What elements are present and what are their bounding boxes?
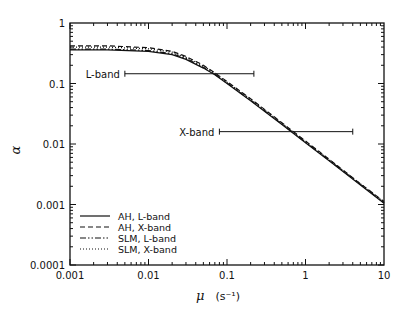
x-tick-label: 0.01 bbox=[137, 270, 159, 281]
legend-label: SLM, L-band bbox=[118, 233, 176, 244]
x-axis-unit: (s⁻¹) bbox=[216, 290, 241, 303]
x-tick-label: 0.001 bbox=[56, 270, 85, 281]
y-tick-label: 0.0001 bbox=[30, 260, 65, 271]
band-label: X-band bbox=[179, 127, 214, 138]
x-tick-label: 0.1 bbox=[219, 270, 235, 281]
legend-label: SLM, X-band bbox=[118, 244, 177, 255]
x-tick-label: 10 bbox=[378, 270, 391, 281]
y-tick-labels: 0.00010.0010.010.11 bbox=[30, 18, 65, 271]
band-range-bars: L-bandX-band bbox=[86, 69, 353, 138]
chart-figure: L-bandX-band 0.0010.010.1110 0.00010.001… bbox=[0, 0, 406, 312]
y-tick-label: 0.1 bbox=[49, 79, 65, 90]
x-tick-labels: 0.0010.010.1110 bbox=[56, 270, 391, 281]
x-tick-label: 1 bbox=[302, 270, 308, 281]
legend-label: AH, X-band bbox=[118, 222, 171, 233]
y-tick-label: 0.001 bbox=[36, 200, 65, 211]
legend-label: AH, L-band bbox=[118, 211, 170, 222]
y-tick-label: 1 bbox=[59, 18, 65, 29]
x-axis-symbol: μ bbox=[196, 288, 204, 303]
band-label: L-band bbox=[86, 69, 120, 80]
legend: AH, L-bandAH, X-bandSLM, L-bandSLM, X-ba… bbox=[80, 211, 177, 255]
x-axis-title: μ (s⁻¹) bbox=[196, 285, 240, 304]
y-tick-label: 0.01 bbox=[43, 139, 65, 150]
y-axis-title: α bbox=[8, 145, 23, 154]
